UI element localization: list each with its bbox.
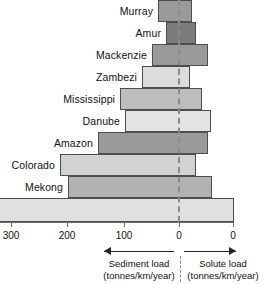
arrow-shaft [104, 251, 174, 252]
bar-colorado[interactable] [60, 154, 196, 176]
axis-tick [67, 222, 68, 227]
bar-label-colorado: Colorado [12, 159, 55, 171]
arrow-head-right-icon [229, 247, 236, 255]
bar-row: Mekong [0, 176, 266, 198]
axis-tick-label-100: 100 [116, 230, 133, 241]
bar-murray[interactable] [158, 0, 192, 22]
bar-row: Mississippi [0, 88, 266, 110]
bar-mekong[interactable] [68, 176, 212, 198]
solute-caption-line2: (tonnes/km/year) [180, 270, 266, 282]
bar-row [0, 198, 266, 222]
bar-row: Amur [0, 22, 266, 44]
plot-area: Murray Amur Mackenzie Zambezi Mississipp… [0, 0, 266, 222]
bar-label-zambezi: Zambezi [96, 71, 137, 83]
bar-offscale[interactable] [0, 198, 234, 222]
axis-tick [233, 222, 234, 227]
bar-label-amazon: Amazon [54, 137, 93, 149]
bar-row: Colorado [0, 154, 266, 176]
bar-label-amur: Amur [136, 27, 162, 39]
bar-amazon[interactable] [98, 132, 208, 154]
sediment-caption-line2: (tonnes/km/year) [96, 270, 182, 282]
arrow-head-left-icon [104, 247, 111, 255]
axis-tick-label-300: 300 [3, 230, 20, 241]
solute-caption-line1: Solute load [199, 258, 247, 269]
sediment-load-caption: Sediment load (tonnes/km/year) [96, 258, 182, 282]
axis-tick-label-200: 200 [59, 230, 76, 241]
bar-label-murray: Murray [120, 5, 153, 17]
bar-row: Murray [0, 0, 266, 22]
bar-amur[interactable] [166, 22, 196, 44]
bar-label-mekong: Mekong [25, 181, 63, 193]
bar-label-mackenzie: Mackenzie [96, 49, 147, 61]
bar-zambezi[interactable] [142, 66, 190, 88]
axis-tick [11, 222, 12, 227]
axis-tick [179, 222, 180, 227]
zero-reference-line [178, 0, 180, 222]
bar-label-danube: Danube [83, 115, 120, 127]
axis-tick-label-zero-right: 0 [230, 230, 236, 241]
sediment-axis-arrow [104, 246, 174, 257]
river-load-chart: Murray Amur Mackenzie Zambezi Mississipp… [0, 0, 266, 284]
bar-row: Mackenzie [0, 44, 266, 66]
sediment-caption-line1: Sediment load [109, 258, 170, 269]
axis-tick [124, 222, 125, 227]
solute-axis-arrow [184, 246, 236, 257]
bar-row: Amazon [0, 132, 266, 154]
bar-mackenzie[interactable] [152, 44, 208, 66]
bar-row: Zambezi [0, 66, 266, 88]
caption-divider [180, 256, 181, 282]
axis-tick-label-zero-left: 0 [176, 230, 182, 241]
bar-danube[interactable] [125, 110, 211, 132]
x-axis-line [0, 222, 234, 223]
solute-load-caption: Solute load (tonnes/km/year) [180, 258, 266, 282]
bar-label-mississippi: Mississippi [63, 93, 115, 105]
bar-mississippi[interactable] [120, 88, 202, 110]
bar-row: Danube [0, 110, 266, 132]
